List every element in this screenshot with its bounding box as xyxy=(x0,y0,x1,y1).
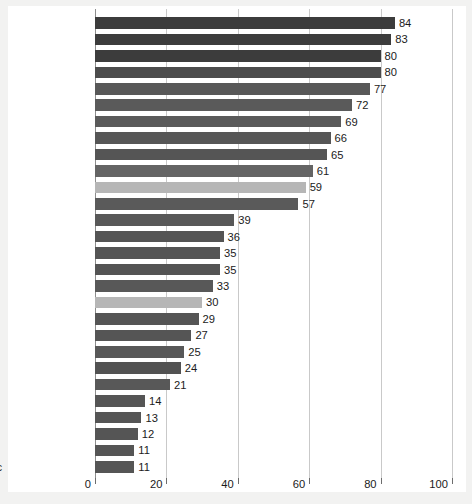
bar-category-label: Guatemala xyxy=(0,64,95,80)
bar xyxy=(95,149,327,161)
bar-value-label: 80 xyxy=(385,64,397,80)
x-tick-mark xyxy=(166,478,167,484)
bar-value-label: 77 xyxy=(374,81,386,97)
bar xyxy=(95,461,134,473)
bar-value-label: 25 xyxy=(188,344,200,360)
bar-row: Ukraine35 xyxy=(8,245,466,261)
x-tick-mark xyxy=(309,478,310,484)
bar-value-label: 80 xyxy=(385,48,397,64)
bar-row: Canada30 xyxy=(8,294,466,310)
bar-row: Angola80 xyxy=(8,48,466,64)
bar-value-label: 83 xyxy=(395,31,407,47)
bar-row: Bolivia66 xyxy=(8,130,466,146)
bar-value-label: 11 xyxy=(138,442,150,458)
x-tick-mark xyxy=(238,478,239,484)
bar-value-label: 35 xyxy=(224,245,236,261)
bar-value-label: 21 xyxy=(174,377,186,393)
bar-value-label: 59 xyxy=(310,179,322,195)
bar xyxy=(95,247,220,259)
bar-row: Vietnam24 xyxy=(8,360,466,376)
bar xyxy=(95,330,191,342)
bar xyxy=(95,428,138,440)
bar xyxy=(95,362,181,374)
bar-category-label: Poland xyxy=(0,229,95,245)
bar-row: Turkey65 xyxy=(8,147,466,163)
bar-value-label: 36 xyxy=(228,229,240,245)
bar xyxy=(95,412,141,424)
bar-category-label: Brazil xyxy=(0,81,95,97)
bar-category-label: Russia xyxy=(0,393,95,409)
bar-category-label: Honduras xyxy=(0,97,95,113)
bar xyxy=(95,297,202,309)
bar-category-label: Venezuela xyxy=(0,163,95,179)
bar-row: Poland36 xyxy=(8,229,466,245)
bar xyxy=(95,379,170,391)
bar-value-label: 66 xyxy=(335,130,347,146)
bar-category-label: Canada xyxy=(0,294,95,310)
x-axis: 020406080100 xyxy=(8,478,466,500)
bar-row: Italy27 xyxy=(8,327,466,343)
bar-row: Russia14 xyxy=(8,393,466,409)
bar-value-label: 84 xyxy=(399,15,411,31)
bar-row: France11 xyxy=(8,442,466,458)
bar-category-label: Korea xyxy=(0,344,95,360)
bar xyxy=(95,346,184,358)
bar-category-label: Germany xyxy=(0,377,95,393)
bar-category-label: Czech Republic xyxy=(0,459,95,475)
bar-category-label: Mexico xyxy=(0,196,95,212)
bar-category-label: Tanzania xyxy=(0,31,95,47)
bar-category-label: United States xyxy=(0,179,95,195)
bar-category-label: Ukraine xyxy=(0,245,95,261)
bar xyxy=(95,116,341,128)
bar xyxy=(95,395,145,407)
x-tick-label: 80 xyxy=(335,478,377,490)
bar-category-label: Slovakia xyxy=(0,311,95,327)
bar-value-label: 33 xyxy=(217,278,229,294)
bar-chart-figure: Ghana84Tanzania83Angola80Guatemala80Braz… xyxy=(0,0,472,504)
bar-row: Peru69 xyxy=(8,114,466,130)
bar-rows: Ghana84Tanzania83Angola80Guatemala80Braz… xyxy=(8,15,466,475)
bar-row: United States59 xyxy=(8,179,466,195)
bar xyxy=(95,50,381,62)
bar-value-label: 39 xyxy=(238,212,250,228)
bar-value-label: 57 xyxy=(302,196,314,212)
plot-area: Ghana84Tanzania83Angola80Guatemala80Braz… xyxy=(8,6,466,492)
bar xyxy=(95,132,331,144)
bar-category-label: Vietnam xyxy=(0,360,95,376)
bar-row: Argentina39 xyxy=(8,212,466,228)
bar-value-label: 69 xyxy=(345,114,357,130)
x-tick-label: 100 xyxy=(406,478,448,490)
bar-category-label: Argentina xyxy=(0,212,95,228)
bar-category-label: Great Britain xyxy=(0,278,95,294)
bar-value-label: 13 xyxy=(145,410,157,426)
bar-value-label: 27 xyxy=(195,327,207,343)
bar xyxy=(95,83,370,95)
bar xyxy=(95,231,224,243)
x-tick-label: 0 xyxy=(49,478,91,490)
bar-category-label: Peru xyxy=(0,114,95,130)
bar-row: Tanzania83 xyxy=(8,31,466,47)
bar-category-label: Turkey xyxy=(0,147,95,163)
bar xyxy=(95,17,395,29)
bar xyxy=(95,165,313,177)
bar-row: Bulgaria13 xyxy=(8,410,466,426)
bar xyxy=(95,214,234,226)
bar-row: Guatemala80 xyxy=(8,64,466,80)
bar-row: Brazil77 xyxy=(8,81,466,97)
bar-row: Uzbekistan35 xyxy=(8,262,466,278)
bar-category-label: France xyxy=(0,442,95,458)
bar-value-label: 24 xyxy=(185,360,197,376)
bar xyxy=(95,198,298,210)
bar-category-label: Angola xyxy=(0,48,95,64)
bar-category-label: Uzbekistan xyxy=(0,262,95,278)
x-tick-label: 60 xyxy=(263,478,305,490)
bar-value-label: 35 xyxy=(224,262,236,278)
bar-category-label: Ghana xyxy=(0,15,95,31)
bar xyxy=(95,280,213,292)
bar-row: Japan12 xyxy=(8,426,466,442)
bar-value-label: 30 xyxy=(206,294,218,310)
bar-row: Venezuela61 xyxy=(8,163,466,179)
bar-value-label: 29 xyxy=(203,311,215,327)
bar-row: Honduras72 xyxy=(8,97,466,113)
bar xyxy=(95,445,134,457)
